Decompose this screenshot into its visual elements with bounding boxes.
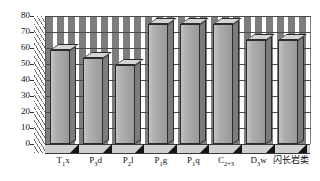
x-axis-labels: T1xP3dP2lP1gP1qC2+3D3w闪长岩类 [34, 155, 310, 177]
bar-column [213, 18, 233, 144]
bar-front-face [246, 40, 266, 144]
bar-side-face [233, 20, 239, 144]
y-tick-label: 10 [21, 123, 30, 132]
y-tick-label: 60 [21, 43, 30, 52]
bar-column [148, 18, 168, 144]
x-axis-label: 闪长岩类 [265, 155, 317, 166]
bar-column [115, 59, 135, 144]
bar-front-face [50, 50, 70, 144]
y-axis: 01020304050607080 [0, 16, 34, 153]
bar-column [246, 34, 266, 144]
bar-foot-shadow [103, 144, 112, 153]
bar-front-face [180, 24, 200, 144]
bar-column [83, 52, 103, 144]
y-tick-label: 40 [21, 75, 30, 84]
plot-area [34, 16, 310, 153]
bar-foot-shadow [298, 144, 307, 153]
bar-column [278, 34, 298, 144]
bar-foot-shadow [233, 144, 242, 153]
bar-foot-shadow [135, 144, 144, 153]
bar-series [34, 16, 310, 153]
bar-front-face [278, 40, 298, 144]
bar-side-face [70, 46, 76, 144]
bar-front-face [115, 65, 135, 144]
bar-front-face [83, 58, 103, 144]
bar-side-face [135, 61, 141, 144]
floor-front-edge [45, 153, 310, 154]
bar-side-face [266, 36, 272, 144]
bar-side-face [103, 54, 109, 144]
bar-foot-shadow [266, 144, 275, 153]
y-tick-label: 50 [21, 59, 30, 68]
bar-chart: 01020304050607080 T1xP3dP2lP1gP1qC2+3D3w… [0, 0, 320, 181]
bar-foot-shadow [70, 144, 79, 153]
bar-side-face [298, 36, 304, 144]
bar-foot-shadow [168, 144, 177, 153]
y-tick-label: 30 [21, 91, 30, 100]
bar-side-face [168, 20, 174, 144]
bar-column [50, 44, 70, 144]
bar-front-face [148, 24, 168, 144]
bar-front-face [213, 24, 233, 144]
y-tick-label: 80 [21, 11, 30, 20]
bar-column [180, 18, 200, 144]
y-tick-label: 20 [21, 107, 30, 116]
y-tick-label: 70 [21, 27, 30, 36]
bar-foot-shadow [200, 144, 209, 153]
bar-side-face [200, 20, 206, 144]
